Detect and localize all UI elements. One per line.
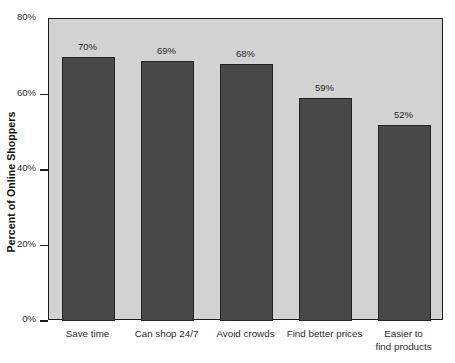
- x-axis-tick-label: Easier to find products: [358, 327, 449, 353]
- x-axis-tick-label: Save time: [42, 327, 133, 340]
- bar-chart-figure: Percent of Online Shoppers 0%20%40%60%80…: [0, 0, 455, 363]
- y-axis-tick-label: 80%: [17, 11, 36, 22]
- y-axis-tick-mark: [40, 245, 48, 247]
- bar-value-label: 59%: [285, 82, 364, 93]
- bar: [220, 64, 273, 321]
- bar-value-label: 52%: [364, 109, 443, 120]
- bar: [378, 125, 431, 321]
- y-axis-tick-mark: [40, 320, 48, 322]
- bar: [299, 98, 352, 321]
- bar: [141, 61, 194, 321]
- bar-value-label: 70%: [48, 41, 127, 52]
- bar: [62, 57, 115, 321]
- bar-value-label: 69%: [127, 45, 206, 56]
- y-axis-tick-label: 40%: [17, 162, 36, 173]
- x-axis-tick-label: Avoid crowds: [200, 327, 291, 340]
- y-axis-tick-mark: [40, 169, 48, 171]
- y-axis-title: Percent of Online Shoppers: [0, 0, 22, 363]
- y-axis-tick-label: 60%: [17, 87, 36, 98]
- bar-value-label: 68%: [206, 48, 285, 59]
- y-axis-title-label: Percent of Online Shoppers: [5, 111, 17, 252]
- plot-area: [48, 18, 443, 320]
- x-axis-tick-label: Find better prices: [279, 327, 370, 340]
- x-axis-tick-label: Can shop 24/7: [121, 327, 212, 340]
- y-axis-tick-label: 20%: [17, 238, 36, 249]
- y-axis-tick-label: 0%: [22, 313, 36, 324]
- y-axis-tick-mark: [40, 94, 48, 96]
